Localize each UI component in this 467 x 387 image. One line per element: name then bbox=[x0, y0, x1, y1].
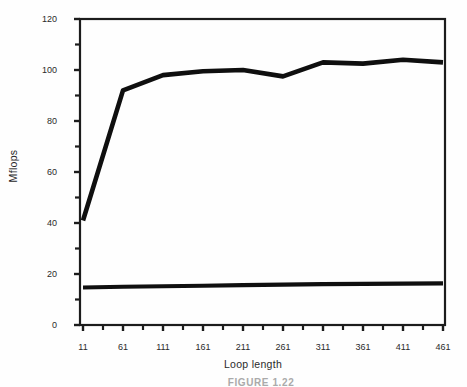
plot-frame bbox=[80, 19, 445, 325]
x-tick-label: 311 bbox=[316, 342, 330, 352]
x-tick-label: 361 bbox=[355, 342, 370, 352]
scanned-figure-page: 0204060801001201161111161211261311361411… bbox=[0, 0, 467, 387]
series-lower-line bbox=[83, 283, 443, 287]
y-tick-label: 20 bbox=[47, 269, 57, 279]
x-tick-label: 11 bbox=[78, 342, 87, 352]
y-axis-title: Mflops bbox=[7, 136, 21, 196]
x-tick-label: 211 bbox=[236, 342, 250, 352]
x-tick-label: 161 bbox=[195, 342, 210, 352]
chart-canvas: 0204060801001201161111161211261311361411… bbox=[0, 0, 467, 387]
figure-caption-clipped: FIGURE 1.22 bbox=[201, 377, 321, 386]
y-tick-label: 120 bbox=[42, 14, 57, 24]
y-tick-label: 100 bbox=[42, 65, 57, 75]
x-tick-label: 61 bbox=[118, 342, 128, 352]
mflops-line-chart: 0204060801001201161111161211261311361411… bbox=[0, 0, 467, 387]
x-axis-title: Loop length bbox=[193, 358, 313, 372]
y-tick-label: 0 bbox=[52, 320, 57, 330]
x-tick-label: 411 bbox=[396, 342, 410, 352]
x-tick-label: 111 bbox=[156, 342, 170, 352]
x-tick-label: 261 bbox=[275, 342, 290, 352]
y-tick-label: 80 bbox=[47, 116, 57, 126]
series-upper-line bbox=[83, 60, 443, 221]
x-tick-label: 461 bbox=[435, 342, 450, 352]
y-tick-label: 40 bbox=[47, 218, 57, 228]
y-tick-label: 60 bbox=[47, 167, 57, 177]
